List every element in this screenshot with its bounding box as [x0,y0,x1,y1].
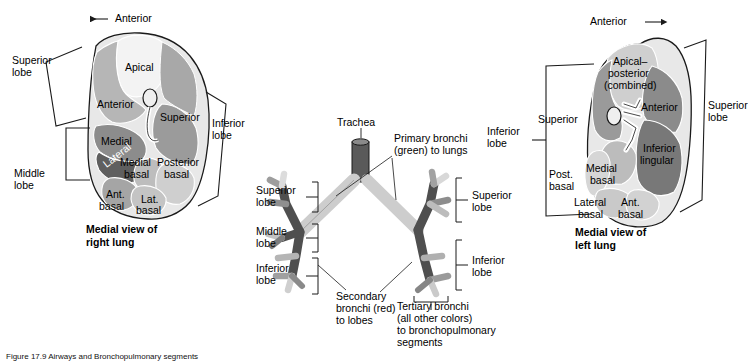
primary-bronchi-label-line1: Primary bronchi [394,133,468,145]
right-segment-posterior-basal-line1: Posterior [157,157,199,169]
tertiary-l-5 [424,256,442,258]
left-segment-medial-basal-line2: basal [590,175,615,187]
right-lung-superior-lobe-label-line2: lobe [12,67,32,79]
tertiary-bronchi-label-line1: Tertiary bronchi [397,301,469,313]
right-segment-ant-basal-line1: Ant. [106,189,125,201]
tertiary-l-8 [418,280,430,290]
left-segment-apical-line3: (combined) [604,80,657,92]
leader-primary-2 [392,158,396,200]
left-lung-inferior-lobe-line1: Inferior [487,126,520,138]
tertiary-l-2 [432,172,434,184]
trachea-top [352,139,369,145]
tree-right-superior-lobe-line1: Superior [472,190,512,202]
trachea-label: Trachea [337,117,375,129]
tertiary-bronchi-label-line2: (all other colors) [397,313,472,325]
left-lung-direction-label: Anterior [590,16,627,28]
tree-left-middle-lobe-line2: lobe [256,238,276,250]
left-lung-title-line1: Medial view of [575,227,646,239]
left-segment-lateral-basal-line1: Lateral [574,197,606,209]
bracket-superior-lobe-right [46,47,86,126]
tertiary-bronchi-label-line4: segments [397,337,443,349]
left-segment-lateral-basal-line2: basal [578,209,603,221]
right-segment-posterior-basal-line2: basal [164,169,189,181]
tree-left-superior-lobe-line2: lobe [256,197,276,209]
right-lung-inferior-lobe-label-line2: lobe [212,130,232,142]
hilum-right [143,89,157,107]
left-segment-ant-basal-line1: Ant. [621,197,640,209]
left-segment-superior-label: Superior [538,114,578,126]
right-segment-ant-basal-line2: basal [99,201,124,213]
right-lung-title-line2: right lung [86,237,134,249]
left-segment-apical-line1: Apical– [613,56,647,68]
secondary-bronchi-label-line3: to lobes [336,315,373,327]
left-segment-inferior-lingular-line1: Inferior [643,143,676,155]
figure-caption: Figure 17.9 Airways and Bronchopulmonary… [6,352,198,361]
tree-right-inferior-lobe-line2: lobe [472,267,492,279]
right-lung-direction-label: Anterior [115,13,152,25]
left-lung-inferior-lobe-line2: lobe [487,138,507,150]
left-segment-apical-line2: posterior [608,68,649,80]
right-segment-anterior-label: Anterior [97,99,134,111]
right-segment-apical-label: Apical [125,62,154,74]
leader-secondary-1 [318,265,346,290]
right-lung-middle-lobe-label-line1: Middle [14,168,45,180]
bracket-middle-lobe-right [66,128,90,180]
left-segment-ant-basal-line2: basal [618,209,643,221]
primary-bronchus-left [367,180,418,230]
tree-left-inferior-lobe-line2: lobe [256,275,276,287]
bracket-inferior-lobe-left [546,64,594,216]
tree-left-inferior-lobe-line1: Inferior [256,263,289,275]
left-segment-inferior-lingular-line2: lingular [640,155,674,167]
leader-secondary-2 [380,262,412,292]
left-lung-superior-lobe-line1: Superior [708,100,748,112]
left-segment-medial-basal-line1: Medial [586,163,617,175]
right-segment-superior-label: Superior [160,112,200,124]
tertiary-r-6 [278,256,296,258]
primary-bronchi-label-line2: (green) to lungs [394,145,468,157]
right-lung-inferior-lobe-label-line1: Inferior [212,118,245,130]
hilum-left [607,107,621,125]
secondary-bronchi-label-line1: Secondary [336,291,386,303]
tree-left-superior-lobe-line1: Superior [256,185,296,197]
primary-bronchus-right-edge [300,180,354,232]
right-segment-medial-basal-line1: Medial [120,157,151,169]
secondary-bronchi-label-line2: bronchi (red) [336,303,396,315]
left-lung-superior-lobe-line2: lobe [708,112,728,124]
left-segment-post-basal-line2: basal [549,181,574,193]
right-segment-lat-basal-line2: basal [136,205,161,217]
tertiary-bronchi-label-line3: to bronchopulmonary [397,325,496,337]
tertiary-r-9 [292,276,302,286]
tertiary-l-4 [430,204,446,214]
right-lung-title-line1: Medial view of [86,224,157,236]
left-segment-post-basal-line1: Post. [549,169,573,181]
right-segment-medial-basal-line2: basal [124,169,149,181]
right-lung-middle-lobe-label-line2: lobe [14,180,34,192]
left-segment-anterior-label: Anterior [641,102,678,114]
left-lung-title-line2: left lung [575,240,616,252]
tree-left-middle-lobe-line1: Middle [256,226,287,238]
tree-right-superior-lobe-line2: lobe [472,202,492,214]
tree-right-inferior-lobe-line1: Inferior [472,255,505,267]
right-lung-superior-lobe-label-line1: Superior [12,55,52,67]
